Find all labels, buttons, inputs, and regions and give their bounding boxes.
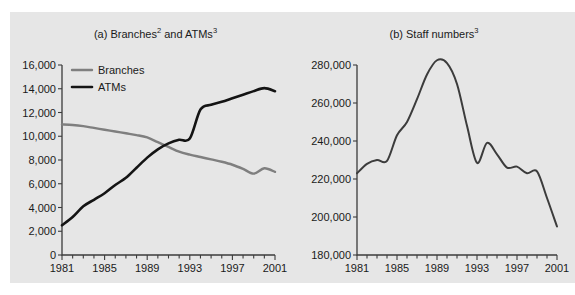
x-axis-tick-label-b-0: 1981 xyxy=(345,262,369,274)
y-axis-tick-label-a-4: 8,000 xyxy=(28,154,56,166)
y-axis-tick-label-b-3: 240,000 xyxy=(311,135,351,147)
legend-label-branches: Branches xyxy=(98,64,145,76)
y-axis-tick-label-a-8: 16,000 xyxy=(22,59,56,71)
series-line-atms xyxy=(62,88,275,225)
y-axis-tick-label-a-2: 4,000 xyxy=(28,202,56,214)
legend-label-atms: ATMs xyxy=(98,81,126,93)
x-axis-tick-label-a-1: 1985 xyxy=(92,262,116,274)
y-axis-tick-label-b-5: 280,000 xyxy=(311,59,351,71)
chart-panel-staff-numbers: (b) Staff numbers3 180,000200,000220,000… xyxy=(295,12,575,283)
x-axis-tick-label-a-3: 1993 xyxy=(178,262,202,274)
series-line-branches xyxy=(62,124,275,173)
y-axis-tick-label-a-6: 12,000 xyxy=(22,107,56,119)
x-axis-tick-label-a-4: 1997 xyxy=(220,262,244,274)
panel-b-plot: 180,000200,000220,000240,000260,000280,0… xyxy=(295,12,575,283)
y-axis-tick-label-b-1: 200,000 xyxy=(311,211,351,223)
chart-panel-branches-atms: (a) Branches2 and ATMs3 02,0004,0006,000… xyxy=(10,12,295,283)
y-axis-tick-label-a-0: 0 xyxy=(50,249,56,261)
x-axis-tick-label-b-1: 1985 xyxy=(385,262,409,274)
y-axis-tick-label-a-5: 10,000 xyxy=(22,130,56,142)
x-axis-tick-label-b-2: 1989 xyxy=(425,262,449,274)
y-axis-tick-label-b-4: 260,000 xyxy=(311,97,351,109)
y-axis-tick-label-b-2: 220,000 xyxy=(311,173,351,185)
panel-a-plot: 02,0004,0006,0008,00010,00012,00014,0001… xyxy=(10,12,295,283)
y-axis-tick-label-a-3: 6,000 xyxy=(28,178,56,190)
x-axis-tick-label-b-5: 2001 xyxy=(545,262,569,274)
figure-container: (a) Branches2 and ATMs3 02,0004,0006,000… xyxy=(10,12,575,283)
y-axis-tick-label-a-1: 2,000 xyxy=(28,225,56,237)
x-axis-tick-label-a-2: 1989 xyxy=(135,262,159,274)
x-axis-tick-label-a-0: 1981 xyxy=(50,262,74,274)
y-axis-tick-label-a-7: 14,000 xyxy=(22,83,56,95)
y-axis-tick-label-b-0: 180,000 xyxy=(311,249,351,261)
x-axis-tick-label-b-4: 1997 xyxy=(505,262,529,274)
x-axis-tick-label-a-5: 2001 xyxy=(263,262,287,274)
series-line-staff-numbers xyxy=(357,59,557,226)
x-axis-tick-label-b-3: 1993 xyxy=(465,262,489,274)
